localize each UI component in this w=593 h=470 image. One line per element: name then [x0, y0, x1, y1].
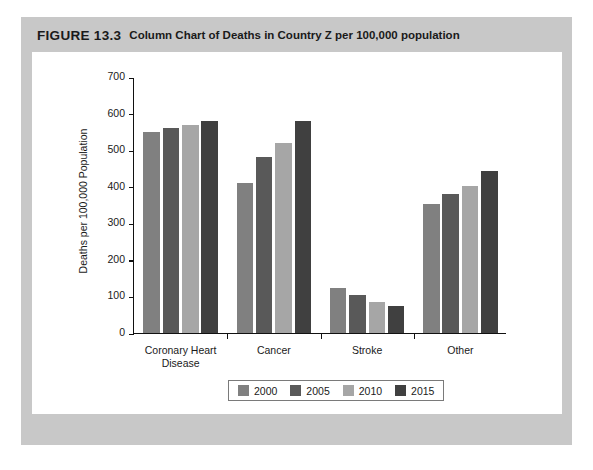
chart-plot-wrapper: Deaths per 100,000 Population 0100200300…: [32, 52, 562, 414]
legend-swatch-icon: [238, 385, 249, 396]
bar-2015: [295, 121, 312, 333]
y-tick-label: 100: [107, 289, 125, 301]
legend-label: 2010: [359, 385, 382, 397]
y-tick-label: 400: [107, 180, 125, 192]
bar-group: [423, 78, 497, 333]
y-axis-title: Deaths per 100,000 Population: [77, 91, 89, 311]
x-tick-mark: [227, 333, 228, 339]
y-tick-label: 0: [119, 326, 125, 338]
bar-group: [330, 78, 404, 333]
bar-2000: [423, 204, 440, 333]
bar-2005: [163, 128, 180, 333]
legend-item-2000[interactable]: 2000: [238, 385, 277, 397]
bar-2010: [369, 302, 386, 333]
bar-2010: [275, 143, 292, 333]
legend-label: 2000: [254, 385, 277, 397]
bar-2015: [481, 171, 498, 333]
bar-group: [143, 78, 217, 333]
x-tick-mark: [321, 333, 322, 339]
y-tick-label: 700: [107, 70, 125, 82]
x-axis-category-label: Coronary Heart Disease: [145, 344, 217, 370]
bar-2015: [388, 306, 405, 333]
bar-2010: [182, 125, 199, 333]
x-tick-mark: [414, 333, 415, 339]
chart-card: Deaths per 100,000 Population 0100200300…: [32, 52, 562, 414]
bar-2005: [349, 295, 366, 333]
plot-area: 0100200300400500600700 Coronary Heart Di…: [133, 78, 506, 334]
bar-2000: [143, 132, 160, 333]
legend-item-2010[interactable]: 2010: [343, 385, 382, 397]
y-tick-label: 500: [107, 143, 125, 155]
legend-swatch-icon: [343, 385, 354, 396]
chart-legend: 2000200520102015: [228, 380, 444, 401]
x-axis-category-label: Cancer: [257, 344, 291, 357]
bar-2010: [462, 186, 479, 333]
bar-2000: [237, 183, 254, 333]
legend-swatch-icon: [395, 385, 406, 396]
legend-item-2005[interactable]: 2005: [290, 385, 329, 397]
y-tick-label: 600: [107, 107, 125, 119]
y-tick-mark: [129, 334, 134, 335]
legend-label: 2015: [411, 385, 434, 397]
figure-number-label: FIGURE 13.3: [37, 28, 121, 43]
figure-caption: Column Chart of Deaths in Country Z per …: [129, 29, 459, 41]
legend-swatch-icon: [290, 385, 301, 396]
bars-layer: [134, 78, 506, 333]
legend-item-2015[interactable]: 2015: [395, 385, 434, 397]
bar-group: [237, 78, 311, 333]
bar-2015: [201, 121, 218, 333]
y-tick-label: 300: [107, 216, 125, 228]
x-axis-category-label: Stroke: [352, 344, 382, 357]
figure-title-bar: FIGURE 13.3 Column Chart of Deaths in Co…: [21, 22, 572, 48]
x-axis-category-label: Other: [447, 344, 473, 357]
bar-2005: [442, 194, 459, 333]
figure-page: FIGURE 13.3 Column Chart of Deaths in Co…: [0, 0, 593, 470]
legend-label: 2005: [306, 385, 329, 397]
bar-2000: [330, 288, 347, 333]
page-bottom-strip: [21, 414, 572, 445]
bar-2005: [256, 157, 273, 333]
y-tick-label: 200: [107, 253, 125, 265]
